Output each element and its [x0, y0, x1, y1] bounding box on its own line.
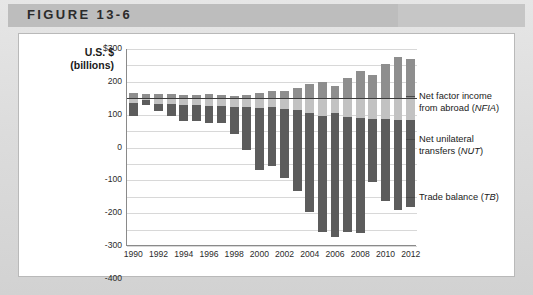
- bar-group[interactable]: [381, 49, 390, 245]
- bar-group[interactable]: [217, 49, 226, 245]
- bar-segment-nfia: [343, 78, 352, 98]
- plot-area: $3002001000-100-200-300-400-500-600-700-…: [126, 49, 416, 246]
- legend-connector-line: [406, 96, 415, 97]
- legend-label-line2: from abroad (NFIA): [419, 103, 499, 115]
- bar-segment-nfia: [318, 82, 327, 98]
- bar-segment-tb: [242, 107, 251, 150]
- bar-segment-nut: [255, 98, 264, 108]
- bar-segment-nut: [293, 98, 302, 110]
- legend-abbreviation: NUT: [461, 146, 480, 156]
- bar-segment-nut: [280, 98, 289, 109]
- y-axis-tick-label: 200: [108, 76, 122, 86]
- bar-segment-nut: [331, 98, 340, 113]
- bar-segment-nut: [381, 98, 390, 119]
- bar-group[interactable]: [255, 49, 264, 245]
- bar-segment-nfia: [280, 91, 289, 99]
- y-axis-tick-label: -100: [105, 174, 122, 184]
- y-axis-tick-label: -400: [105, 273, 122, 283]
- x-axis-tick-label: 2004: [300, 249, 319, 259]
- bar-group[interactable]: [179, 49, 188, 245]
- bar-segment-nut: [192, 98, 201, 105]
- legend-label-line1: Trade balance (TB): [419, 192, 499, 204]
- bar-segment-tb: [394, 120, 403, 210]
- legend-label-line1: Net factor income: [419, 91, 499, 103]
- bar-segment-nut: [406, 98, 415, 119]
- bar-group[interactable]: [142, 49, 151, 245]
- bar-group[interactable]: [318, 49, 327, 245]
- x-axis-tick-label: 2008: [351, 249, 370, 259]
- bar-segment-nfia: [368, 75, 377, 98]
- bar-segment-nut: [305, 98, 314, 112]
- legend-label-line1: Net unilateral: [419, 134, 483, 146]
- bar-segment-nut: [343, 98, 352, 117]
- bar-segment-tb: [205, 106, 214, 123]
- bar-segment-tb: [129, 103, 138, 116]
- y-axis-tick-label: -200: [105, 207, 122, 217]
- bar-group[interactable]: [268, 49, 277, 245]
- zero-axis-line: 0: [127, 98, 417, 99]
- bar-segment-tb: [293, 110, 302, 191]
- bar-group[interactable]: [343, 49, 352, 245]
- y-axis-tick-label: 0: [117, 142, 122, 152]
- bar-segment-nut: [368, 98, 377, 119]
- bar-group[interactable]: [242, 49, 251, 245]
- bar-segment-tb: [179, 105, 188, 121]
- bar-group[interactable]: [280, 49, 289, 245]
- bar-segment-tb: [368, 119, 377, 182]
- legend-entry: Net factor incomefrom abroad (NFIA): [419, 91, 499, 114]
- bar-group[interactable]: [394, 49, 403, 245]
- x-axis-tick-label: 1998: [225, 249, 244, 259]
- x-axis-tick-label: 1992: [149, 249, 168, 259]
- bar-segment-tb: [217, 106, 226, 124]
- bar-group[interactable]: [154, 49, 163, 245]
- bar-segment-nut: [179, 98, 188, 105]
- bar-group[interactable]: [406, 49, 415, 245]
- bar-group[interactable]: [167, 49, 176, 245]
- bar-segment-tb: [305, 113, 314, 213]
- legend-entry: Net unilateraltransfers (NUT): [419, 134, 483, 157]
- bar-segment-nut: [205, 98, 214, 105]
- bar-segment-nfia: [268, 91, 277, 99]
- legend-connector-line: [406, 197, 415, 198]
- bar-segment-nfia: [293, 88, 302, 99]
- bar-segment-tb: [142, 100, 151, 105]
- bar-group[interactable]: [356, 49, 365, 245]
- bar-segment-nfia: [394, 57, 403, 98]
- bar-group[interactable]: [305, 49, 314, 245]
- bar-segment-tb: [381, 119, 390, 200]
- bar-segment-tb: [356, 118, 365, 233]
- bar-group[interactable]: [129, 49, 138, 245]
- bar-segment-nut: [242, 98, 251, 106]
- bar-group[interactable]: [331, 49, 340, 245]
- bar-segment-nut: [230, 98, 239, 107]
- bar-segment-nut: [318, 98, 327, 115]
- bar-group[interactable]: [368, 49, 377, 245]
- bar-group[interactable]: [293, 49, 302, 245]
- x-axis-tick-label: 1990: [124, 249, 143, 259]
- bar-segment-tb: [154, 104, 163, 111]
- bar-segment-nfia: [381, 64, 390, 98]
- bar-segment-nfia: [356, 71, 365, 98]
- bar-segment-tb: [331, 113, 340, 237]
- figure-label: FIGURE 13-6: [27, 7, 132, 22]
- legend-abbreviation: TB: [484, 192, 496, 202]
- x-axis-tick-label: 2006: [325, 249, 344, 259]
- legend-abbreviation: NFIA: [475, 103, 496, 113]
- legend-label-line2: transfers (NUT): [419, 146, 483, 158]
- chart-card: U.S. $ (billions) $3002001000-100-200-30…: [18, 33, 515, 277]
- figure-container: FIGURE 13-6 U.S. $ (billions) $300200100…: [0, 0, 533, 295]
- bar-group[interactable]: [192, 49, 201, 245]
- bar-group[interactable]: [230, 49, 239, 245]
- bar-segment-tb: [255, 108, 264, 170]
- y-axis-tick-label: $300: [103, 43, 122, 53]
- bar-segment-tb: [167, 104, 176, 115]
- bar-segment-tb: [318, 116, 327, 233]
- bar-group[interactable]: [205, 49, 214, 245]
- bar-segment-tb: [268, 107, 277, 166]
- x-axis-tick-label: 2012: [401, 249, 420, 259]
- bar-segment-nfia: [331, 86, 340, 98]
- x-axis-tick-label: 2010: [376, 249, 395, 259]
- bar-segment-tb: [280, 109, 289, 178]
- x-axis-tick-label: 1996: [199, 249, 218, 259]
- y-axis-tick-label: 100: [108, 109, 122, 119]
